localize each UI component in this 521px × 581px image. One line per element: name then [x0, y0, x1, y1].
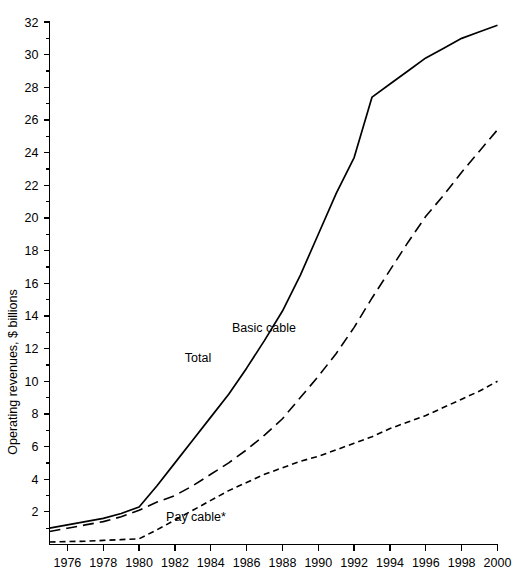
x-axis-tick-label: 1980 — [125, 556, 153, 570]
chart-annotations: TotalBasic cablePay cable* — [166, 321, 296, 524]
y-axis-title-text: Operating revenues, $ billions — [6, 289, 20, 454]
x-axis-tick-label: 1992 — [340, 556, 368, 570]
y-axis-tick-label: 10 — [25, 375, 39, 389]
line-chart: 2468101214161820222426283032197619781980… — [0, 0, 521, 581]
x-axis-tick-label: 1998 — [448, 556, 476, 570]
x-axis-tick-label: 1988 — [269, 556, 297, 570]
y-axis-tick-label: 2 — [32, 505, 39, 519]
series-line-total — [50, 25, 498, 528]
x-axis-tick-label: 1996 — [412, 556, 440, 570]
y-axis-tick-label: 30 — [25, 48, 39, 62]
x-axis-tick-label: 1986 — [233, 556, 261, 570]
x-axis-tick-label: 1984 — [197, 556, 225, 570]
y-axis-tick-label: 28 — [25, 81, 39, 95]
y-axis-tick-label: 18 — [25, 244, 39, 258]
y-axis-tick-label: 4 — [32, 473, 39, 487]
y-axis-tick-label: 32 — [25, 16, 39, 30]
y-axis-tick-label: 8 — [32, 407, 39, 421]
x-axis-tick-label: 1982 — [161, 556, 189, 570]
chart-series — [50, 25, 498, 542]
y-axis-tick-label: 20 — [25, 211, 39, 225]
y-axis-tick-label: 16 — [25, 277, 39, 291]
y-axis-tick-label: 6 — [32, 440, 39, 454]
y-axis-tick-label: 26 — [25, 113, 39, 127]
x-axis-tick-label: 1990 — [304, 556, 332, 570]
x-axis-tick-label: 2000 — [484, 556, 512, 570]
series-label-pay-cable: Pay cable* — [166, 510, 226, 524]
x-axis-tick-label: 1976 — [54, 556, 82, 570]
series-label-total: Total — [185, 351, 211, 365]
x-axis-tick-label: 1978 — [89, 556, 117, 570]
chart-axes: 2468101214161820222426283032197619781980… — [25, 16, 512, 570]
y-axis-tick-label: 12 — [25, 342, 39, 356]
y-axis-tick-label: 14 — [25, 309, 39, 323]
y-axis-title: Operating revenues, $ billions — [6, 289, 20, 454]
y-axis-tick-label: 22 — [25, 179, 39, 193]
x-axis-tick-label: 1994 — [376, 556, 404, 570]
chart-container: 2468101214161820222426283032197619781980… — [0, 0, 521, 581]
y-axis-tick-label: 24 — [25, 146, 39, 160]
series-label-basic-cable: Basic cable — [232, 321, 296, 335]
